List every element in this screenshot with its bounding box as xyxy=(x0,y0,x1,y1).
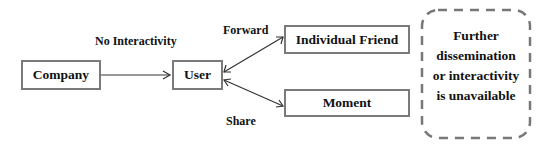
node-company: Company xyxy=(21,60,101,90)
note-unavailable: Further dissemination or interactivity i… xyxy=(420,8,532,140)
node-individual-friend: Individual Friend xyxy=(284,25,410,54)
arrow-user-share-moment xyxy=(224,80,283,106)
note-line-1: Further xyxy=(433,26,519,46)
node-user-label: User xyxy=(184,67,211,83)
note-line-3: or interactivity xyxy=(433,66,519,86)
edge-label-no-interactivity: No Interactivity xyxy=(95,34,177,49)
edge-label-share: Share xyxy=(226,114,256,129)
node-moment-label: Moment xyxy=(323,95,372,111)
node-moment: Moment xyxy=(284,89,410,117)
arrow-user-forward-friend xyxy=(224,37,283,72)
note-line-4: is unavailable xyxy=(433,86,519,106)
note-line-2: dissemination xyxy=(433,46,519,66)
node-company-label: Company xyxy=(33,67,89,83)
node-individual-friend-label: Individual Friend xyxy=(296,32,398,48)
edge-label-forward: Forward xyxy=(223,23,268,38)
node-user: User xyxy=(172,60,223,90)
